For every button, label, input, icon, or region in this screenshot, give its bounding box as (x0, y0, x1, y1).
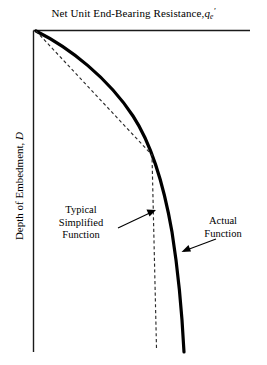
actual-function-curve (36, 31, 184, 352)
plot-area (0, 0, 267, 365)
annotation-simplified-line3: Function (48, 229, 114, 242)
annotation-actual-line2: Function (192, 228, 254, 241)
annotation-simplified-function: Typical Simplified Function (48, 204, 114, 242)
figure-container: Net Unit End-Bearing Resistance,qe′ Dept… (0, 0, 267, 365)
annotation-simplified-line1: Typical (48, 204, 114, 217)
actual-arrowhead-icon (182, 245, 192, 252)
simplified-arrowhead-icon (147, 210, 157, 217)
annotation-simplified-line2: Simplified (48, 217, 114, 230)
annotation-actual-function: Actual Function (192, 215, 254, 240)
simplified-function-curve (36, 31, 157, 348)
annotation-actual-line1: Actual (192, 215, 254, 228)
